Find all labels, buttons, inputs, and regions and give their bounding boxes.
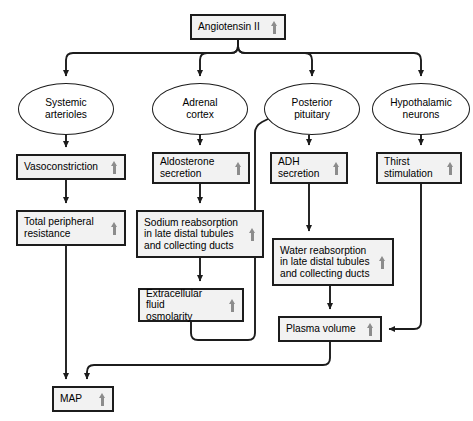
increase-arrow-icon	[111, 222, 118, 235]
increase-arrow-icon	[379, 256, 386, 269]
edge-plasma-volume-to-map	[87, 342, 330, 379]
increase-arrow-icon	[235, 162, 242, 175]
node-label: Total peripheral resistance	[24, 216, 94, 239]
node-sodium-reabsorption[interactable]: Sodium reabsorption in late distal tubul…	[136, 210, 264, 258]
node-extracellular-fluid-osmolarity[interactable]: Extracellular fluid osmolarity	[138, 288, 244, 322]
node-vasoconstriction[interactable]: Vasoconstriction	[16, 154, 126, 180]
increase-arrow-icon	[229, 299, 236, 312]
node-total-peripheral-resistance[interactable]: Total peripheral resistance	[16, 210, 126, 246]
increase-arrow-icon	[271, 21, 278, 34]
node-angiotensin-ii[interactable]: Angiotensin II	[190, 14, 286, 40]
flowchart-diagram: Angiotensin II Systemic arterioles Adren…	[0, 0, 473, 421]
node-hypothalamic-neurons[interactable]: Hypothalamic neurons	[372, 83, 470, 135]
increase-arrow-icon	[333, 162, 340, 175]
node-label: Hypothalamic neurons	[390, 97, 452, 120]
node-label: Water reabsorption in late distal tubule…	[280, 245, 369, 280]
node-label: Angiotensin II	[198, 21, 260, 33]
edge-angiotensin-to-hypothalamic-neurons	[238, 40, 421, 76]
increase-arrow-icon	[367, 323, 374, 336]
node-thirst-stimulation[interactable]: Thirst stimulation	[376, 152, 462, 184]
node-label: Systemic arterioles	[45, 97, 87, 120]
node-label: Extracellular fluid osmolarity	[146, 288, 223, 323]
node-label: Sodium reabsorption in late distal tubul…	[144, 217, 238, 252]
increase-arrow-icon	[111, 161, 118, 174]
increase-arrow-icon	[447, 162, 454, 175]
node-aldosterone-secretion[interactable]: Aldosterone secretion	[152, 152, 250, 184]
node-label: Thirst stimulation	[384, 156, 433, 179]
edge-angiotensin-to-posterior-pituitary	[238, 40, 312, 76]
node-label: Posterior pituitary	[292, 97, 333, 120]
node-plasma-volume[interactable]: Plasma volume	[278, 316, 382, 342]
node-label: Adrenal cortex	[182, 97, 217, 120]
node-adrenal-cortex[interactable]: Adrenal cortex	[152, 83, 248, 135]
node-posterior-pituitary[interactable]: Posterior pituitary	[264, 83, 360, 135]
node-label: Vasoconstriction	[24, 161, 98, 173]
node-label: MAP	[60, 393, 82, 405]
edge-angiotensin-to-adrenal-cortex	[200, 40, 238, 76]
node-label: Plasma volume	[286, 323, 356, 335]
edge-angiotensin-to-systemic-arterioles	[66, 40, 238, 76]
node-label: ADH secretion	[278, 156, 319, 179]
node-label: Aldosterone secretion	[160, 156, 214, 179]
node-water-reabsorption[interactable]: Water reabsorption in late distal tubule…	[272, 238, 394, 286]
node-systemic-arterioles[interactable]: Systemic arterioles	[18, 83, 114, 135]
node-adh-secretion[interactable]: ADH secretion	[270, 152, 348, 184]
increase-arrow-icon	[249, 228, 256, 241]
increase-arrow-icon	[99, 393, 106, 406]
node-map[interactable]: MAP	[52, 386, 114, 412]
